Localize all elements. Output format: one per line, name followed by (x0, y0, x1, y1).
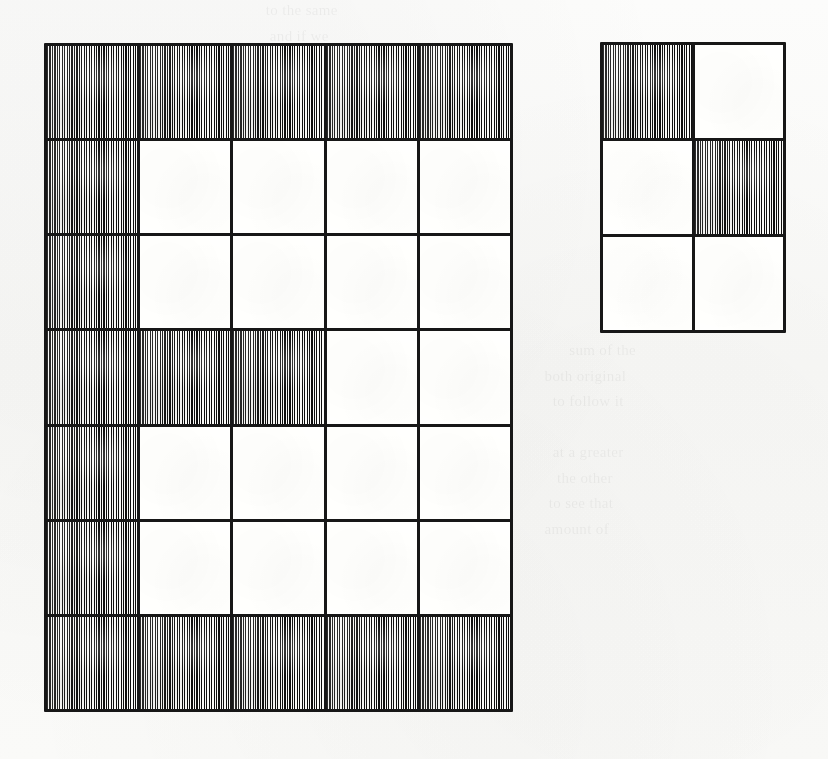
grid-cell (603, 45, 692, 138)
grid-cell (47, 236, 137, 328)
grid-cell (420, 522, 510, 614)
grid-cell (327, 236, 417, 328)
grid-cell (140, 141, 230, 233)
grid-cell (47, 617, 137, 709)
grid-cell (327, 331, 417, 423)
grid-cell (420, 617, 510, 709)
grid-cell (47, 331, 137, 423)
grid-cell (47, 141, 137, 233)
small-grid (600, 42, 786, 333)
grid-cell (233, 141, 323, 233)
grid-cell (140, 46, 230, 138)
grid-cell (603, 141, 692, 234)
grid-cell (140, 236, 230, 328)
grid-cell (140, 617, 230, 709)
grid-cell (47, 46, 137, 138)
grid-cell (327, 141, 417, 233)
grid-cell (233, 331, 323, 423)
grid-cell (140, 331, 230, 423)
grid-cell (695, 237, 784, 330)
grid-cell (140, 427, 230, 519)
grid-cell (233, 46, 323, 138)
figure-page: to the same and if we the hatched the fi… (0, 0, 828, 759)
grid-cell (327, 427, 417, 519)
grid-cell (420, 46, 510, 138)
grid-cell (327, 46, 417, 138)
grid-cell (327, 617, 417, 709)
grid-cell (327, 522, 417, 614)
large-grid (44, 43, 513, 712)
grid-cell (420, 236, 510, 328)
grid-cell (233, 522, 323, 614)
grid-cell (140, 522, 230, 614)
grid-cell (603, 237, 692, 330)
grid-cell (47, 427, 137, 519)
grid-cell (233, 236, 323, 328)
grid-cell (420, 141, 510, 233)
grid-cell (420, 331, 510, 423)
grid-cell (233, 617, 323, 709)
figures-layer (0, 0, 828, 759)
grid-cell (233, 427, 323, 519)
grid-cell (695, 45, 784, 138)
grid-cell (47, 522, 137, 614)
grid-cell (420, 427, 510, 519)
grid-cell (695, 141, 784, 234)
